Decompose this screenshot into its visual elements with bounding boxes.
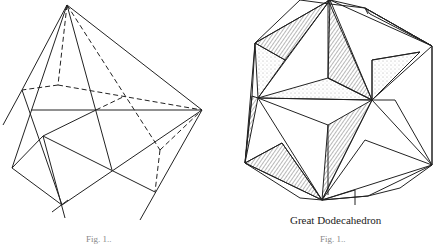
figure-number-left: Fig. 1.. <box>86 234 112 244</box>
left-hidden-edges <box>22 5 202 192</box>
figure-caption-great-dodecahedron: Great Dodecahedron <box>290 214 381 226</box>
right-figure <box>245 0 432 205</box>
left-solid-edges <box>3 5 202 220</box>
figure-number-right: Fig. 1.. <box>320 234 346 244</box>
